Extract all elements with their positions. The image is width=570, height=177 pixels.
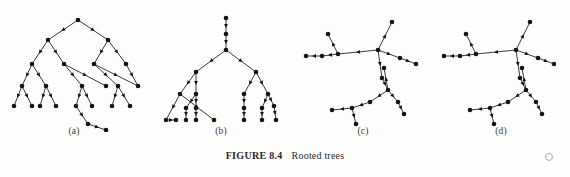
tree-node	[194, 92, 199, 97]
tree-node	[92, 62, 97, 67]
nodes-group	[304, 20, 419, 127]
tree-node	[540, 112, 545, 117]
tree-node	[414, 62, 419, 67]
edge-arrowhead	[194, 112, 198, 116]
tree-node	[474, 52, 479, 57]
tree-node	[442, 54, 447, 59]
tree-node	[396, 100, 401, 105]
edge-arrowhead	[378, 62, 382, 66]
tree-node	[402, 112, 407, 117]
tree-node	[242, 92, 247, 97]
edge-arrowhead	[490, 114, 494, 118]
tree-node	[136, 84, 141, 89]
tree-node	[468, 108, 473, 113]
edge-arrowhead	[359, 103, 363, 107]
tree-panel-a: (a)	[0, 0, 148, 145]
tree-node	[380, 76, 385, 81]
tree-node	[464, 32, 469, 37]
edge-arrowhead	[238, 58, 242, 62]
tree-node	[74, 104, 79, 109]
nodes-group	[164, 16, 279, 123]
tree-node	[528, 20, 533, 25]
edge-arrowhead	[224, 24, 228, 28]
edge-arrowhead	[497, 103, 501, 107]
edges-group	[166, 18, 276, 120]
edge-arrowhead	[114, 49, 118, 53]
edge-arrowhead	[312, 54, 316, 58]
panel-label-a: (a)	[0, 126, 148, 136]
edge-arrowhead	[61, 27, 65, 31]
edge-arrowhead	[384, 77, 388, 81]
edge-arrowhead	[242, 99, 246, 103]
tree-node	[458, 54, 463, 59]
tree-node	[272, 104, 277, 109]
tree-node	[552, 62, 557, 67]
tree-panels-row: (a) (b) (c) (d)	[0, 0, 570, 145]
tree-node	[62, 62, 67, 67]
edge-arrowhead	[194, 99, 198, 103]
tree-node	[506, 100, 511, 105]
tree-node	[274, 118, 279, 123]
edge-arrowhead	[386, 52, 390, 56]
tree-node	[20, 84, 25, 89]
edge-arrowhead	[273, 111, 277, 115]
edge-arrowhead	[187, 80, 191, 84]
edge-arrowhead	[524, 52, 528, 56]
tree-node	[30, 62, 35, 67]
tree-node	[194, 106, 199, 111]
figure-container: (a) (b) (c) (d) FIGURE 8.4Rooted trees	[0, 0, 570, 177]
tree-node	[184, 118, 189, 123]
tree-panel-b: (b)	[148, 0, 294, 145]
tree-node	[390, 20, 395, 25]
tree-node	[124, 62, 129, 67]
tree-node	[242, 106, 247, 111]
edge-arrowhead	[169, 118, 173, 122]
tree-node	[90, 104, 95, 109]
tree-panel-d: (d)	[432, 0, 570, 145]
tree-node	[194, 118, 199, 123]
edge-arrowhead	[184, 112, 188, 116]
edge-arrowhead	[516, 62, 520, 66]
edge-arrowhead	[377, 93, 381, 97]
tree-node	[80, 84, 85, 89]
tree-node	[164, 118, 169, 123]
panel-label-c: (c)	[294, 126, 432, 136]
tree-node	[320, 54, 325, 59]
tree-node	[76, 18, 81, 23]
tree-node	[224, 48, 229, 53]
tree-node	[386, 88, 391, 93]
edge-arrowhead	[224, 40, 228, 44]
tree-node	[536, 56, 541, 61]
tree-node	[104, 84, 109, 89]
tree-node	[330, 108, 335, 113]
tree-node	[534, 100, 539, 105]
tree-graph-c	[294, 0, 432, 132]
edge-arrowhead	[190, 98, 194, 102]
figure-caption-text: Rooted trees	[292, 150, 345, 161]
tree-graph-b	[148, 0, 294, 132]
edge-arrowhead	[53, 49, 57, 53]
tree-node	[520, 66, 525, 71]
tree-node	[106, 38, 111, 43]
tree-node	[368, 100, 373, 105]
edge-arrowhead	[522, 77, 526, 81]
tree-node	[174, 118, 179, 123]
edge-arrowhead	[242, 112, 246, 116]
figure-caption: FIGURE 8.4Rooted trees	[0, 150, 570, 161]
arrowheads-group	[450, 34, 548, 118]
tree-node	[12, 104, 17, 109]
tree-node	[44, 84, 49, 89]
tree-node	[266, 92, 271, 97]
edge-arrowhead	[39, 49, 43, 53]
tree-node	[128, 104, 133, 109]
tree-node	[224, 32, 229, 37]
tree-node	[260, 118, 265, 123]
nodes-group	[12, 18, 141, 132]
arrowheads-group	[312, 34, 410, 118]
nodes-group	[442, 20, 557, 127]
tree-node	[382, 66, 387, 71]
panel-label-b: (b)	[148, 126, 294, 136]
tree-node	[304, 54, 309, 59]
tree-node	[242, 118, 247, 123]
tree-node	[350, 106, 355, 111]
